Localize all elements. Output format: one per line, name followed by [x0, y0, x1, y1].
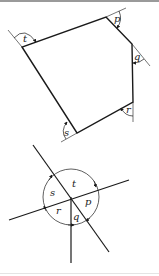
circle-label-q: q — [73, 211, 79, 222]
exterior-angle-arcs — [14, 11, 144, 139]
circle-figure — [9, 145, 129, 263]
extension-lines — [8, 8, 150, 142]
label-p: p — [114, 13, 121, 24]
circle-label-s: s — [50, 187, 55, 198]
bottom-border — [0, 273, 159, 274]
pentagon — [22, 17, 133, 133]
label-r: r — [126, 104, 132, 115]
circle-label-t: t — [72, 178, 77, 189]
exterior-angles-diagram: p q r s t t s r q p — [0, 0, 159, 276]
label-t: t — [23, 33, 28, 44]
label-q: q — [134, 51, 140, 62]
circle-label-r: r — [56, 205, 62, 216]
circle-label-p: p — [85, 196, 92, 207]
label-s: s — [64, 127, 69, 138]
